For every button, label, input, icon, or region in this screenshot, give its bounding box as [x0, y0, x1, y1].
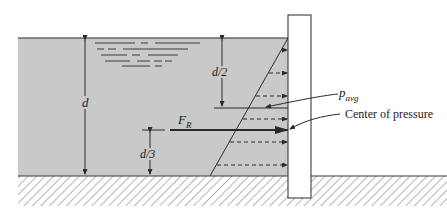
resultant-force-symbol: F	[178, 112, 186, 127]
ground-hatch	[18, 176, 447, 206]
center-of-pressure-label: Center of pressure	[345, 108, 433, 120]
resultant-force-label: FR	[178, 113, 191, 130]
third-depth-label: d/3	[140, 148, 155, 160]
avg-pressure-label: pavg	[339, 86, 359, 103]
wall	[288, 15, 311, 198]
resultant-force-subscript: R	[186, 120, 192, 130]
diagram-canvas: d d/2 d/3 FR pavg Center of pressure	[0, 0, 447, 219]
half-depth-label: d/2	[212, 66, 227, 78]
avg-pressure-subscript: avg	[346, 93, 359, 103]
depth-label: d	[81, 96, 90, 109]
